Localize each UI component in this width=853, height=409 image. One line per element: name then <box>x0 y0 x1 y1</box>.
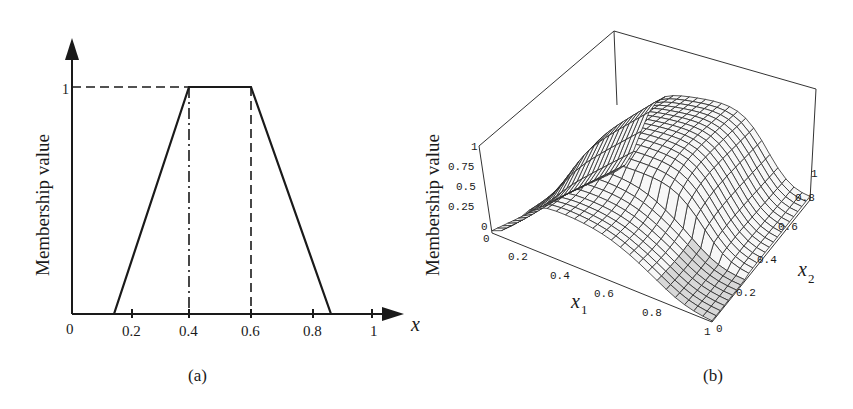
x1-axis-label-sub: 1 <box>581 302 588 317</box>
svg-text:0.4: 0.4 <box>550 270 570 282</box>
surface-chart: 1 0.75 0.5 0.25 0 0 0.2 0.4 0.6 0.8 1 0 … <box>420 0 853 409</box>
svg-text:0.25: 0.25 <box>448 201 474 213</box>
caption-a: (a) <box>188 366 207 386</box>
x-tick-0.6: 0.6 <box>241 323 260 339</box>
caption-b: (b) <box>703 366 723 386</box>
svg-text:0.6: 0.6 <box>594 288 614 300</box>
chart-panel-a: 1 0 0.2 0.4 0.6 0.8 1 x 1 Membership val… <box>0 0 420 409</box>
svg-text:1: 1 <box>471 141 478 153</box>
x-tick-0.8: 0.8 <box>303 323 322 339</box>
svg-text:0: 0 <box>481 221 488 233</box>
x2-axis-label: x <box>797 258 807 280</box>
trapezoid-chart: 1 0 0.2 0.4 0.6 0.8 1 x 1 <box>0 0 420 409</box>
trapezoid-series <box>114 87 331 314</box>
svg-text:0.2: 0.2 <box>736 287 756 299</box>
svg-text:0: 0 <box>483 233 490 245</box>
x-axis-label: x <box>410 313 420 335</box>
z-ticks: 1 0.75 0.5 0.25 0 <box>448 141 488 233</box>
z-axis-label: Membership value <box>422 134 444 276</box>
y-axis-label: Membership value <box>32 134 54 276</box>
svg-text:0.6: 0.6 <box>778 221 798 233</box>
x-tick-0.4: 0.4 <box>179 323 198 339</box>
svg-text:1: 1 <box>811 168 818 180</box>
svg-text:0.75: 0.75 <box>448 161 474 173</box>
chart-panel-b: 1 0.75 0.5 0.25 0 0 0.2 0.4 0.6 0.8 1 0 … <box>420 0 853 409</box>
y-tick-1: 1 <box>62 82 69 97</box>
x-tick-0.2: 0.2 <box>122 323 141 339</box>
x1-axis-label: x <box>570 290 580 312</box>
x-tick-0: 0 <box>66 321 74 337</box>
svg-text:0.8: 0.8 <box>642 307 662 319</box>
svg-text:1: 1 <box>704 326 711 338</box>
y-axis-arrow-icon <box>65 38 79 60</box>
svg-text:0: 0 <box>716 323 723 335</box>
svg-text:0.5: 0.5 <box>456 181 476 193</box>
x-tick-1: 1 <box>370 323 378 339</box>
x2-axis-label-sub: 2 <box>808 271 815 286</box>
svg-text:0.2: 0.2 <box>508 251 528 263</box>
surface-mesh <box>492 96 810 321</box>
svg-text:0.8: 0.8 <box>795 192 815 204</box>
svg-text:0.4: 0.4 <box>757 254 777 266</box>
x-axis-arrow-icon <box>382 307 404 321</box>
